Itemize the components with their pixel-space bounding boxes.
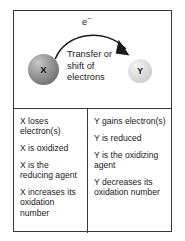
transfer-description: Transfer or shift of electrons [67,49,127,84]
statement-item: X is oxidized [20,143,82,153]
statement-item: Y gains electron(s) [94,116,166,126]
statements-column-y: Y gains electron(s) Y is reduced Y is th… [88,109,171,233]
statement-item: Y is reduced [94,133,166,143]
statements-column-x: X loses electron(s) X is oxidized X is t… [14,109,88,233]
statements-panel: X loses electron(s) X is oxidized X is t… [14,109,171,233]
statement-item: X is the reducing agent [20,160,82,181]
species-sphere-x: X [28,54,59,85]
species-x-label: X [40,64,46,75]
species-sphere-y: Y [128,59,152,83]
diagram-panel: e− X Y Transfer or shift of electrons [14,11,171,109]
statement-item: X increases its oxidation number [20,187,82,218]
species-y-label: Y [137,66,143,76]
statement-item: X loses electron(s) [20,116,82,137]
statement-item: Y decreases its oxidation number [94,177,166,198]
redox-diagram-figure: e− X Y Transfer or shift of electrons X … [13,10,172,232]
statement-item: Y is the oxidizing agent [94,150,166,171]
